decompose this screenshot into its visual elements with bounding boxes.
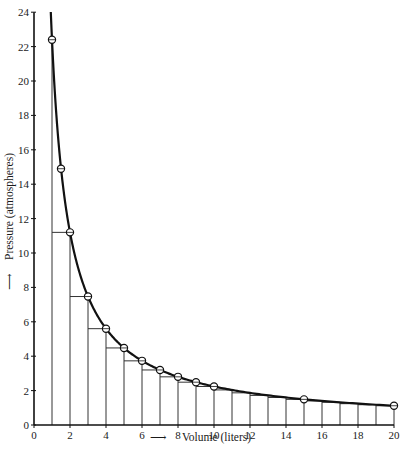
y-tick-label: 4 bbox=[24, 350, 30, 362]
x-axis-title: ⟶ Volume (liters) bbox=[150, 431, 251, 444]
y-tick-label: 12 bbox=[18, 213, 29, 225]
y-tick-label: 14 bbox=[18, 178, 30, 190]
x-axis-arrow: ⟶ bbox=[150, 431, 167, 443]
x-tick-label: 16 bbox=[317, 429, 329, 441]
x-tick-label: 20 bbox=[389, 429, 401, 441]
pressure-volume-chart: 02468101214161820 024681012141618202224 … bbox=[0, 0, 404, 452]
y-axis-label: Pressure (atmospheres) bbox=[3, 153, 16, 260]
y-axis-arrow: ⟶ bbox=[3, 273, 15, 290]
y-tick-label: 20 bbox=[18, 75, 30, 87]
x-tick-label: 18 bbox=[353, 429, 365, 441]
y-tick-label: 22 bbox=[18, 41, 29, 53]
x-tick-label: 14 bbox=[281, 429, 293, 441]
y-tick-label: 24 bbox=[18, 6, 30, 18]
y-tick-label: 6 bbox=[24, 316, 30, 328]
y-tick-label: 2 bbox=[24, 385, 30, 397]
step-rectangle bbox=[70, 232, 88, 425]
step-rectangles bbox=[52, 40, 394, 425]
x-tick-label: 0 bbox=[31, 429, 37, 441]
step-rectangle bbox=[358, 404, 376, 425]
step-rectangle bbox=[232, 390, 250, 425]
step-rectangle bbox=[268, 395, 286, 425]
x-tick-label: 2 bbox=[67, 429, 73, 441]
data-point-markers bbox=[48, 36, 397, 409]
y-tick-label: 8 bbox=[24, 281, 30, 293]
step-rectangle bbox=[322, 401, 340, 425]
y-tick-label: 0 bbox=[24, 419, 30, 431]
step-rectangle bbox=[340, 402, 358, 425]
y-axis-title: ⟶ Pressure (atmospheres) bbox=[3, 153, 16, 290]
y-tick-label: 18 bbox=[18, 109, 30, 121]
isotherm-curve bbox=[51, 12, 394, 406]
x-tick-label: 6 bbox=[139, 429, 145, 441]
step-rectangle bbox=[250, 393, 268, 425]
step-rectangle bbox=[106, 329, 124, 425]
step-rectangle bbox=[214, 386, 232, 425]
x-axis-label: Volume (liters) bbox=[182, 431, 251, 444]
x-tick-label: 8 bbox=[175, 429, 181, 441]
y-tick-label: 16 bbox=[18, 144, 30, 156]
y-tick-label: 10 bbox=[18, 247, 30, 259]
x-tick-label: 4 bbox=[103, 429, 109, 441]
step-rectangle bbox=[304, 399, 322, 425]
